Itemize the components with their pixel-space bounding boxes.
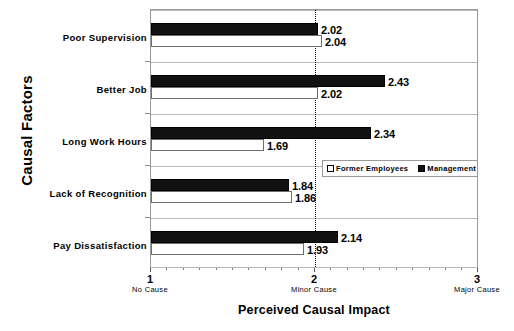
x-tick-minor: [396, 268, 397, 270]
plot-area: 2.02 2.04 2.43 2.02 2.34 1.69 1.84 1.86 …: [150, 9, 478, 268]
value-label-management-lack-of-recognition: 1.84: [292, 181, 313, 192]
category-label-lack-of-recognition: Lack of Recognition: [2, 188, 147, 199]
x-tick-minor: [461, 268, 462, 270]
x-axis-label-1-sub: No Cause: [90, 285, 210, 295]
value-label-management-poor-supervision: 2.02: [321, 25, 342, 36]
x-tick-minor: [412, 268, 413, 270]
category-label-pay-dissatisfaction: Pay Dissatisfaction: [2, 240, 147, 251]
x-tick-1: [150, 268, 151, 272]
x-tick-minor: [199, 268, 200, 270]
x-axis-label-1-number: 1: [90, 274, 210, 285]
legend: Former Employees Management: [322, 160, 478, 177]
x-tick-minor: [248, 268, 249, 270]
x-tick-minor: [347, 268, 348, 270]
bar-management-lack-of-recognition: [151, 179, 289, 191]
legend-label-former-employees: Former Employees: [336, 164, 408, 173]
bar-former-better-job: [151, 87, 318, 99]
x-tick-minor: [429, 268, 430, 270]
category-label-better-job: Better Job: [2, 84, 147, 95]
x-axis-label-2-number: 2: [254, 274, 374, 285]
gridline-1: [151, 62, 477, 63]
x-tick-minor: [330, 268, 331, 270]
bar-management-better-job: [151, 75, 385, 87]
value-label-management-pay-dissatisfaction: 2.14: [341, 233, 362, 244]
value-label-former-better-job: 2.02: [321, 89, 342, 100]
bar-former-long-work-hours: [151, 139, 264, 151]
category-label-poor-supervision: Poor Supervision: [2, 32, 147, 43]
x-axis-title: Perceived Causal Impact: [150, 303, 478, 317]
x-tick-minor: [216, 268, 217, 270]
x-tick-3: [477, 268, 478, 272]
x-tick-minor: [166, 268, 167, 270]
category-label-column: Poor Supervision Better Job Long Work Ho…: [0, 0, 147, 268]
x-tick-minor: [232, 268, 233, 270]
bar-management-pay-dissatisfaction: [151, 231, 338, 243]
x-axis-ticks: [150, 268, 478, 272]
x-tick-minor: [445, 268, 446, 270]
category-label-long-work-hours: Long Work Hours: [2, 136, 147, 147]
x-tick-minor: [363, 268, 364, 270]
bar-former-pay-dissatisfaction: [151, 243, 304, 255]
value-label-management-long-work-hours: 2.34: [374, 129, 395, 140]
chart-figure: Causal Factors Poor Supervision Better J…: [0, 0, 514, 331]
bar-former-poor-supervision: [151, 35, 322, 47]
legend-label-management: Management: [427, 164, 476, 173]
x-tick-minor: [298, 268, 299, 270]
value-label-former-poor-supervision: 2.04: [325, 37, 346, 48]
value-label-former-long-work-hours: 1.69: [267, 141, 288, 152]
x-tick-minor: [265, 268, 266, 270]
legend-swatch-black-icon: [418, 165, 425, 172]
x-axis-label-1: 1 No Cause: [90, 274, 210, 295]
x-tick-minor: [183, 268, 184, 270]
gridline-top: [151, 10, 477, 11]
x-tick-2: [314, 268, 315, 272]
x-axis-label-2: 2 Minor Cause: [254, 274, 374, 295]
value-label-management-better-job: 2.43: [388, 77, 409, 88]
x-tick-minor: [379, 268, 380, 270]
x-axis-label-3-number: 3: [417, 274, 514, 285]
x-axis-label-3: 3 Major Cause: [417, 274, 514, 295]
gridline-4: [151, 218, 477, 219]
bar-management-poor-supervision: [151, 23, 318, 35]
legend-item-former-employees: Former Employees: [327, 164, 408, 173]
value-label-former-lack-of-recognition: 1.86: [295, 193, 316, 204]
x-axis-label-2-sub: Minor Cause: [254, 285, 374, 295]
bar-management-long-work-hours: [151, 127, 371, 139]
bar-former-lack-of-recognition: [151, 191, 292, 203]
x-tick-minor: [281, 268, 282, 270]
legend-item-management: Management: [418, 164, 476, 173]
value-label-former-pay-dissatisfaction: 1.93: [307, 245, 328, 256]
x-axis-label-3-sub: Major Cause: [417, 285, 514, 295]
gridline-2: [151, 114, 477, 115]
legend-swatch-white-icon: [327, 165, 334, 172]
